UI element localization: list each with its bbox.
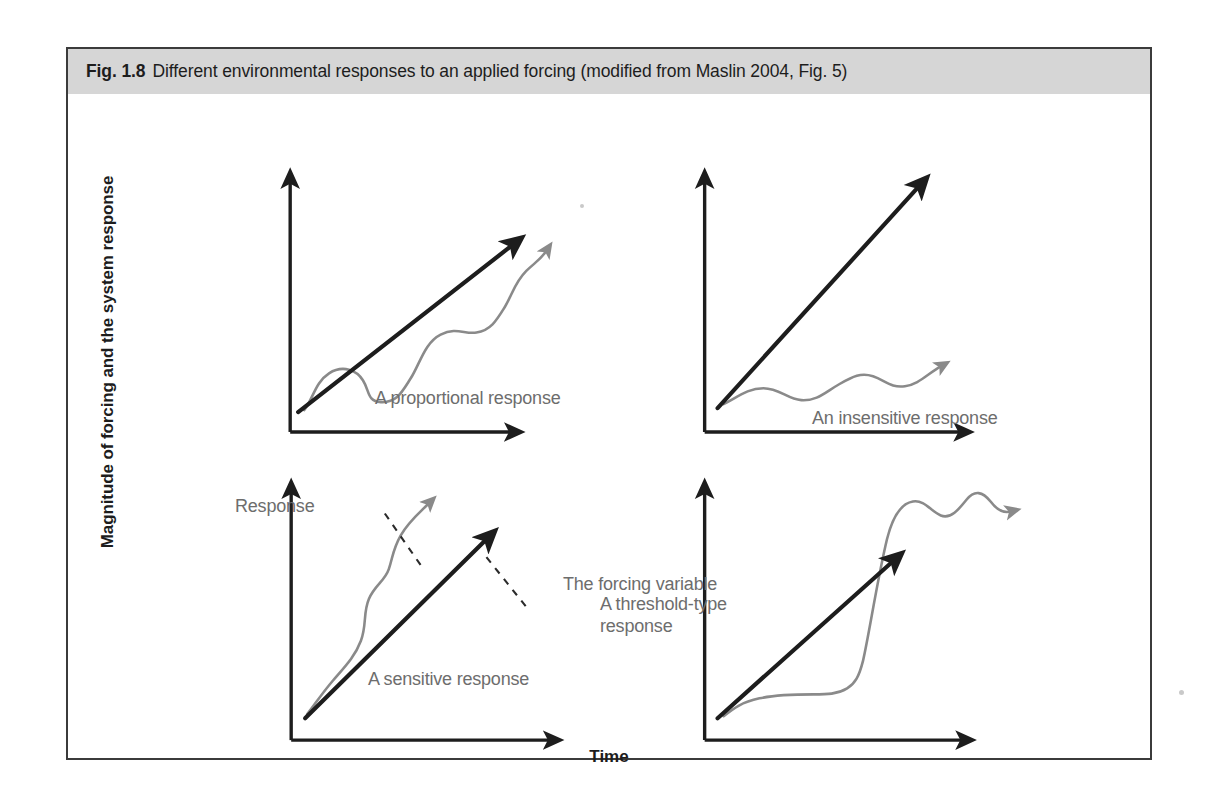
panel-caption-proportional: A proportional response: [375, 388, 561, 410]
panel-3-forcing-arrow: [305, 539, 486, 718]
figure-caption-band: Fig. 1.8Different environmental response…: [68, 49, 1150, 94]
figure-number: Fig. 1.8: [86, 61, 146, 81]
panel-caption-insensitive: An insensitive response: [812, 408, 998, 430]
panel-threshold: [705, 492, 1011, 741]
annotation-forcing-label: The forcing variable: [563, 574, 717, 596]
panel-caption-threshold: A threshold-type response: [600, 594, 750, 638]
figure-caption-text: Different environmental responses to an …: [153, 61, 848, 81]
panel-insensitive: [705, 181, 961, 431]
panel-2-forcing-arrow: [718, 186, 919, 408]
figure-plot-area: Magnitude of forcing and the system resp…: [68, 94, 1150, 758]
panel-4-response-curve: [724, 493, 1011, 716]
panel-caption-sensitive: A sensitive response: [368, 669, 529, 691]
scan-artifact-dot: [580, 204, 584, 208]
figure-frame: Fig. 1.8Different environmental response…: [66, 47, 1152, 760]
panel-2-response-curve: [724, 366, 941, 404]
panel-3-forcing-leader: [486, 557, 526, 607]
panel-3-response-leader: [385, 513, 421, 565]
figure-caption: Fig. 1.8Different environmental response…: [86, 61, 847, 82]
panel-1-response-curve: [304, 251, 546, 410]
scan-artifact-corner: [1179, 690, 1184, 695]
panel-sensitive: [291, 492, 550, 741]
annotation-response-label: Response: [235, 496, 314, 518]
